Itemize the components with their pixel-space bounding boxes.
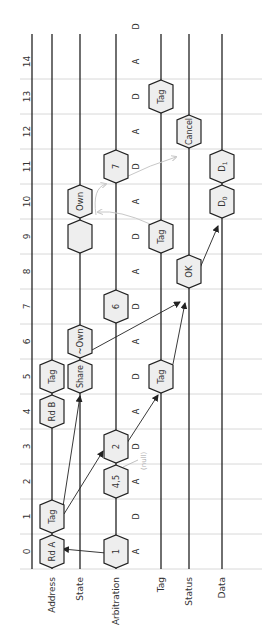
block-tag-tag: Tag <box>149 220 173 253</box>
block-label: Tag <box>47 369 57 384</box>
cycle-label-1: 1 <box>22 514 32 520</box>
arrow-tag1-to-share <box>62 396 80 513</box>
block-address-tag: Tag <box>40 360 64 393</box>
cycle-label-5: 5 <box>22 374 32 380</box>
block-address-rdb: Rd B <box>40 395 64 428</box>
block-label: 1 <box>111 549 121 554</box>
cycle-label-9: 9 <box>22 233 32 239</box>
phase-label: D <box>132 93 141 99</box>
block-arbitration-2: 2 <box>104 430 128 463</box>
block-arbitration-1: 1 <box>104 535 128 568</box>
cycle-label-10: 10 <box>22 196 32 208</box>
phase-label: A <box>132 478 141 484</box>
cycle-label-2: 2 <box>22 479 32 485</box>
cycle-label-13: 13 <box>22 91 32 102</box>
phase-label: D <box>132 23 141 29</box>
lane-label-address: Address <box>47 577 57 613</box>
block-label: Tag <box>156 89 166 104</box>
phase-label: D <box>132 163 141 169</box>
cycle-label-11: 11 <box>22 161 32 172</box>
phase-label: D <box>132 233 141 239</box>
phase-label: A <box>132 548 141 554</box>
lane-labels: AddressStateArbitrationTagStatusData <box>47 577 227 626</box>
cycle-label-0: 0 <box>22 548 32 554</box>
block-arbitration-7: 7 <box>104 150 128 183</box>
block-label: 7 <box>111 164 121 169</box>
lane-label-data: Data <box>217 577 227 599</box>
block-tag-tag: Tag <box>149 80 173 113</box>
block-label: 2 <box>111 444 121 449</box>
block-state-own: ~Own <box>68 325 92 358</box>
block-label: Tag <box>47 509 57 524</box>
block-data-d0: D0 <box>210 185 234 218</box>
block-arbitration-6: 6 <box>104 290 128 323</box>
block-label: Rd A <box>47 541 57 561</box>
phase-label: D <box>132 513 141 519</box>
block-label: OK <box>184 265 194 278</box>
block-state-share: Share <box>68 360 92 393</box>
phase-label: A <box>132 338 141 344</box>
block-label: Cancel <box>185 118 194 145</box>
block-label: Tag <box>156 369 166 384</box>
phase-label: D <box>132 373 141 379</box>
block-address-rda: Rd A <box>40 535 64 568</box>
lane-label-tag: Tag <box>156 577 166 593</box>
phase-label: A <box>132 268 141 274</box>
block-label: ~Own <box>75 328 85 354</box>
lane-label-arbitration: Arbitration <box>111 577 121 625</box>
block-state-blank <box>68 220 92 253</box>
block-arbitration-45: 4,5 <box>104 465 128 498</box>
block-label: Share <box>76 365 85 388</box>
cycle-label-6: 6 <box>22 338 32 344</box>
cycle-label-3: 3 <box>22 444 32 450</box>
timing-diagram: 01234567891011121314 ADADADADADADADAD Rd… <box>0 0 276 641</box>
lane-label-status: Status <box>184 577 194 606</box>
arrow-arb2-to-tag5 <box>125 395 158 446</box>
phase-label: A <box>132 58 141 64</box>
block-status-cancel: Cancel <box>177 115 201 148</box>
phase-label: A <box>132 128 141 134</box>
cycle-labels: 01234567891011121314 <box>22 56 32 555</box>
phase-label: A <box>132 408 141 414</box>
cycle-label-12: 12 <box>22 126 32 137</box>
cycle-label-7: 7 <box>22 304 32 310</box>
block-state-own: Own <box>68 185 92 218</box>
block-label: 6 <box>111 304 121 309</box>
lane-label-state: State <box>75 577 85 601</box>
block-label: Rd B <box>47 401 57 421</box>
block-label: Own <box>75 192 85 211</box>
block-tag-tag: Tag <box>149 360 173 393</box>
arrow-arb1-to-rda <box>63 549 106 553</box>
faint-arrow-tag9-to-own <box>98 212 150 224</box>
phase-label: D <box>132 443 141 449</box>
block-status-ok: OK <box>177 255 201 288</box>
block-label: 4,5 <box>111 475 121 489</box>
cycle-label-4: 4 <box>22 408 32 414</box>
block-address-tag: Tag <box>40 500 64 533</box>
arrow-tag5-to-ok <box>173 303 185 364</box>
cycle-label-14: 14 <box>22 56 32 68</box>
faint-arrow-own-to-arb7 <box>95 184 106 215</box>
phase-label: D <box>132 303 141 309</box>
arrow-ok-to-d0 <box>200 226 218 268</box>
block-label: Tag <box>156 229 166 244</box>
phase-label: A <box>132 198 141 204</box>
block-data-d1: D1 <box>210 150 234 183</box>
cycle-label-8: 8 <box>22 268 32 274</box>
annotation-null: (null) <box>140 452 148 470</box>
